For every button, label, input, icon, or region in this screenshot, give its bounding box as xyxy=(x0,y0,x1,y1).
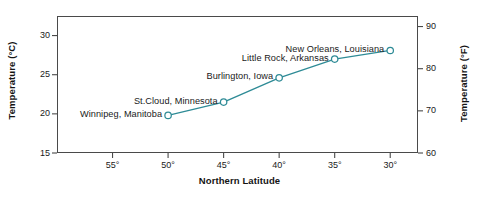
y-axis-title-right-text: Temperature (°F) xyxy=(458,45,469,122)
y-tick-label-right: 80 xyxy=(426,63,450,73)
x-tick-label: 45° xyxy=(204,160,244,170)
plot-frame xyxy=(57,16,418,153)
data-point-label: St.Cloud, Minnesota xyxy=(134,96,218,106)
y-tick-label-left: 15 xyxy=(28,148,50,158)
y-tick-label-left: 20 xyxy=(28,108,50,118)
x-tick-label: 40° xyxy=(259,160,299,170)
x-axis-title: Northern Latitude xyxy=(0,175,479,186)
data-point-label: New Orleans, Louisiana xyxy=(286,44,385,54)
x-tick-label: 30° xyxy=(370,160,410,170)
y-tick-label-right: 90 xyxy=(426,21,450,31)
y-tick-label-left: 30 xyxy=(28,30,50,40)
y-tick-label-left: 25 xyxy=(28,69,50,79)
y-axis-title-right: Temperature (°F) xyxy=(452,6,474,161)
x-tick-label: 35° xyxy=(315,160,355,170)
x-tick-label: 50° xyxy=(148,160,188,170)
y-tick-label-right: 70 xyxy=(426,105,450,115)
x-tick-label: 55° xyxy=(93,160,133,170)
data-point-label: Little Rock, Arkansas xyxy=(242,53,329,63)
x-axis-title-text: Northern Latitude xyxy=(199,175,280,186)
chart-figure: Temperature (°C) Temperature (°F) Northe… xyxy=(0,0,479,197)
y-tick-label-right: 60 xyxy=(426,148,450,158)
y-axis-title-left-text: Temperature (°C) xyxy=(6,41,17,119)
data-point-label: Winnipeg, Manitoba xyxy=(80,109,162,119)
data-point-label: Burlington, Iowa xyxy=(206,71,273,81)
y-axis-title-left: Temperature (°C) xyxy=(0,0,22,160)
